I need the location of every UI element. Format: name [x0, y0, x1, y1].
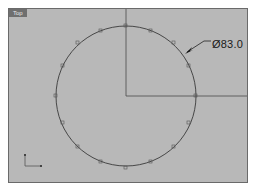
control-points[interactable]: [54, 24, 197, 169]
xy-axes-icon: [24, 154, 42, 167]
viewport-canvas[interactable]: [9, 9, 248, 183]
viewport-title-tab[interactable]: Top: [9, 9, 27, 17]
arrowhead-icon: [185, 47, 193, 54]
diameter-dimension-text[interactable]: Ø83.0: [212, 38, 243, 50]
top-viewport[interactable]: Top Ø83.0: [8, 8, 248, 183]
